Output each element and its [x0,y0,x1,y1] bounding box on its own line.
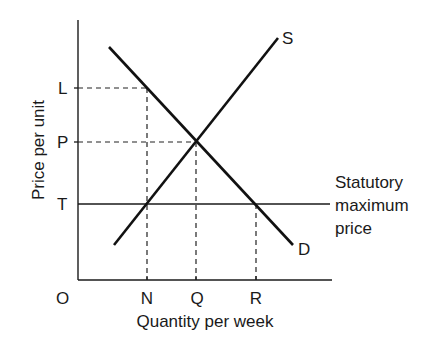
ceiling-label-line1: Statutory [335,173,404,192]
supply-label: S [282,29,293,48]
price-label-l: L [58,79,67,98]
supply-curve [114,38,278,245]
demand-label: D [298,240,310,259]
quantity-label-r: R [250,289,262,308]
supply-demand-diagram: S D L P T N Q R O Quantity per week Pric… [0,0,447,348]
price-label-t: T [57,195,67,214]
quantity-label-q: Q [190,289,203,308]
y-axis-title: Price per unit [29,100,48,200]
x-axis-title: Quantity per week [136,312,274,331]
origin-label: O [56,289,69,308]
price-label-p: P [57,133,68,152]
ceiling-label-line2: maximum [335,196,409,215]
quantity-label-n: N [141,289,153,308]
ceiling-label-line3: price [335,219,372,238]
